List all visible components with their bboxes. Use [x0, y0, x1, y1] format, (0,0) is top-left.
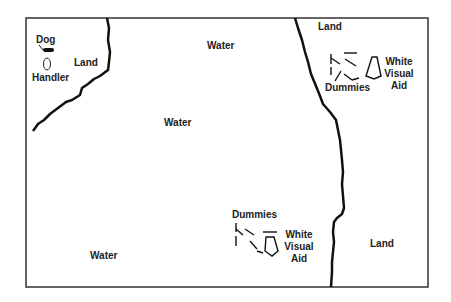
visual-aid-top-line-3: Aid: [384, 80, 414, 92]
dog-label: Dog: [36, 34, 55, 46]
visual-aid-top-line-1: White: [384, 56, 414, 68]
visual-aid-top-line-2: Visual: [384, 68, 414, 80]
visual-aid-top-label: White Visual Aid: [384, 56, 414, 92]
visual-aid-bottom-line-1: White: [284, 229, 314, 241]
land-top-right-label: Land: [318, 21, 342, 33]
water-top-label: Water: [207, 40, 234, 52]
water-bottom-left-label: Water: [90, 250, 117, 262]
visual-aid-bottom-line-2: Visual: [284, 241, 314, 253]
visual-aid-bottom-line-3: Aid: [284, 253, 314, 265]
water-middle-label: Water: [164, 117, 191, 129]
land-bottom-right-label: Land: [370, 238, 394, 250]
land-top-left-label: Land: [74, 57, 98, 69]
dummies-bottom-label: Dummies: [232, 209, 277, 221]
dummies-top-label: Dummies: [325, 82, 370, 94]
handler-label: Handler: [32, 72, 69, 84]
visual-aid-bottom-label: White Visual Aid: [284, 229, 314, 265]
